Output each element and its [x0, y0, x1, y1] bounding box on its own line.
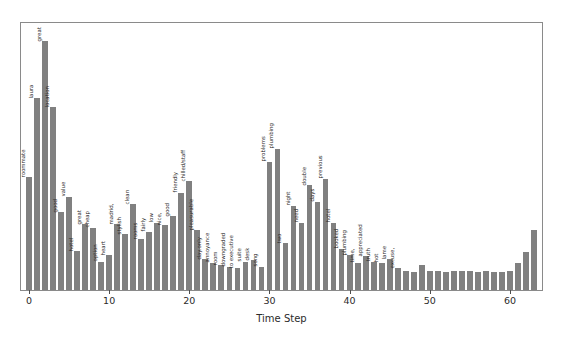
- x-tick-mark: [189, 290, 190, 294]
- bar: excuse,: [395, 268, 401, 290]
- bar-value-label: double: [302, 167, 307, 185]
- bar: plumbing: [347, 255, 353, 290]
- bar-value-label: great: [78, 210, 83, 224]
- bar: problems: [267, 162, 273, 290]
- chart-figure: roommatelauragreatlocationgoodvaluehotel…: [0, 0, 563, 337]
- bar: good: [170, 216, 176, 290]
- bar-value-label: great: [37, 27, 42, 41]
- bar: [467, 271, 473, 290]
- x-tick-label: 40: [344, 295, 356, 306]
- bar: friendly: [178, 193, 184, 290]
- bar: downgraded: [227, 267, 233, 290]
- bar-value-label: downgraded: [222, 233, 227, 267]
- bar: roommate: [26, 177, 32, 290]
- bar-value-label: desk: [246, 248, 251, 261]
- x-tick-label: 20: [183, 295, 195, 306]
- bar: great: [82, 224, 88, 290]
- bar: hot: [379, 263, 385, 290]
- bar-value-label: good: [166, 203, 171, 216]
- bar-value-label: heart: [102, 241, 107, 255]
- bar: [459, 271, 465, 290]
- bar: double: [307, 185, 313, 290]
- x-tick-mark: [510, 290, 511, 294]
- bar-value-label: problems: [262, 137, 267, 162]
- bar: [491, 272, 497, 290]
- bar: annoyance: [210, 263, 216, 290]
- bar: days: [315, 202, 321, 290]
- bar: time,: [355, 263, 361, 290]
- bar: rooms: [138, 239, 144, 290]
- bar-value-label: fairly: [142, 218, 147, 232]
- x-axis-label: Time Step: [20, 313, 543, 324]
- bar: [411, 272, 417, 290]
- bar-value-label: laura: [29, 84, 34, 98]
- bar-value-label: suite: [238, 248, 243, 261]
- bar: day.only: [202, 259, 208, 290]
- bar-value-label: chilled/staff: [182, 150, 187, 181]
- bar: option: [98, 262, 104, 291]
- bar: [475, 272, 481, 290]
- bar: [531, 230, 537, 290]
- bar: laura: [34, 98, 40, 290]
- bar: location: [50, 107, 56, 290]
- bar: desk: [251, 260, 257, 290]
- bar-value-label: to executive: [230, 235, 235, 268]
- bar: [435, 271, 441, 290]
- x-tick-label: 10: [103, 295, 115, 306]
- bar: pleasurable: [194, 230, 200, 290]
- bar: stylish: [122, 234, 128, 290]
- bar: song: [259, 267, 265, 290]
- bar: heart: [106, 255, 112, 290]
- bar: [443, 272, 449, 290]
- bar: to executive: [235, 268, 241, 290]
- bar: cheap: [90, 228, 96, 290]
- plot-axes: roommatelauragreatlocationgoodvaluehotel…: [20, 22, 543, 291]
- bar: night: [291, 206, 297, 290]
- plot-area: roommatelauragreatlocationgoodvaluehotel…: [21, 23, 542, 290]
- bar: [483, 271, 489, 290]
- bar: previous: [323, 179, 329, 290]
- x-tick-mark: [29, 290, 30, 294]
- bar-value-label: madrid,: [110, 203, 115, 224]
- bar-value-label: value: [62, 182, 67, 197]
- bar-value-label: appreciated: [358, 224, 363, 256]
- x-tick-label: 60: [504, 295, 516, 306]
- bar-value-label: low: [150, 213, 155, 222]
- bar-value-label: lame: [382, 246, 387, 259]
- bar: two: [283, 243, 289, 290]
- bar: fairly: [146, 232, 152, 290]
- bar: [499, 272, 505, 290]
- bar: value: [66, 197, 72, 290]
- bar: room: [218, 265, 224, 290]
- bar-value-label: night: [286, 192, 291, 206]
- bar: hotel: [74, 251, 80, 290]
- x-tick-label: 0: [26, 295, 32, 306]
- x-tick-mark: [430, 290, 431, 294]
- bar: great: [42, 41, 48, 290]
- bar: nice,: [162, 225, 168, 290]
- bar: plumbing: [275, 149, 281, 290]
- bar: truth: [371, 262, 377, 291]
- bar: lame: [387, 259, 393, 290]
- bar: [419, 265, 425, 290]
- bar-value-label: friendly: [174, 172, 179, 192]
- bar-value-label: roommate: [21, 149, 26, 177]
- bar: good: [58, 212, 64, 290]
- bar: [507, 271, 513, 290]
- bar: hotel: [331, 223, 337, 290]
- bar-value-label: plumbing: [270, 123, 275, 148]
- bar: [403, 271, 409, 290]
- bar: need: [299, 223, 305, 290]
- bar: [451, 271, 457, 290]
- bar: booked: [339, 249, 345, 290]
- bar: appreciated: [363, 256, 369, 290]
- x-tick-mark: [109, 290, 110, 294]
- bar: low: [154, 223, 160, 290]
- bar: suite: [243, 262, 249, 291]
- x-tick-label: 50: [424, 295, 436, 306]
- bar: clean: [130, 204, 136, 290]
- bar-value-label: previous: [318, 156, 323, 179]
- x-tick-label: 30: [263, 295, 275, 306]
- bar: [515, 263, 521, 290]
- bar-value-label: clean: [126, 190, 131, 205]
